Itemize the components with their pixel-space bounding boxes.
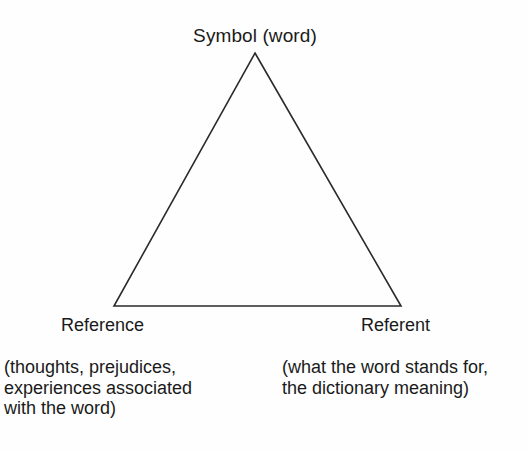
referent-gloss-line-1: (what the word stands for, (282, 357, 488, 378)
referent-gloss-block: (what the word stands for, the dictionar… (282, 357, 488, 398)
reference-gloss-line-1: (thoughts, prejudices, (4, 357, 192, 378)
reference-gloss-block: (thoughts, prejudices, experiences assoc… (4, 357, 192, 419)
triangle-shape (114, 53, 401, 306)
vertex-label-referent: Referent (361, 315, 430, 336)
referent-gloss-line-2: the dictionary meaning) (282, 378, 488, 399)
vertex-label-reference: Reference (61, 315, 144, 336)
reference-gloss-line-2: experiences associated (4, 378, 192, 399)
semiotic-triangle-figure: Symbol (word) Reference Referent (though… (0, 0, 528, 452)
reference-gloss-line-3: with the word) (4, 398, 192, 419)
